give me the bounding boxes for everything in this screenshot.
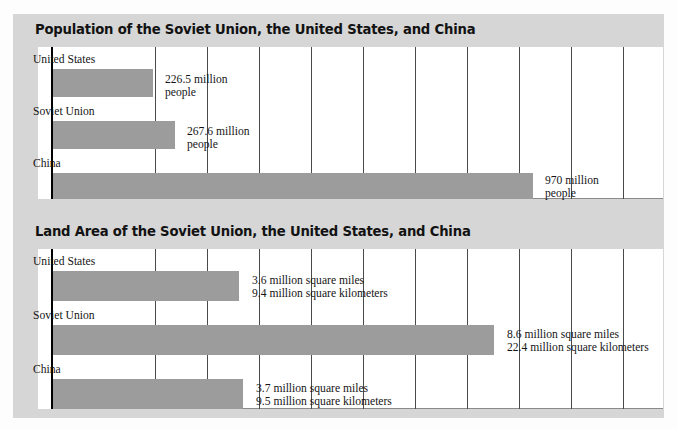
bar-landarea-soviet-union xyxy=(52,325,494,355)
category-label-population-soviet-union: Soviet Union xyxy=(33,105,95,118)
value-line: 9.5 million square kilometers xyxy=(256,396,392,409)
value-line: 970 million xyxy=(545,175,599,188)
value-line: 8.6 million square miles xyxy=(507,329,649,342)
value-label-landarea-china: 3.7 million square miles 9.5 million squ… xyxy=(256,383,392,408)
bar-population-soviet-union xyxy=(52,121,175,149)
chart-population-title: Population of the Soviet Union, the Unit… xyxy=(35,22,475,37)
axis-tick xyxy=(519,404,520,409)
value-line: people xyxy=(545,188,599,201)
gridline xyxy=(623,47,624,199)
value-line: 3.6 million square miles xyxy=(252,275,388,288)
axis-tick xyxy=(623,404,624,409)
bar-population-united-states xyxy=(52,69,153,97)
category-label-landarea-soviet-union: Soviet Union xyxy=(33,309,95,322)
chart-population-y-axis xyxy=(51,47,53,199)
value-line: people xyxy=(165,87,227,100)
chart-landarea: Land Area of the Soviet Union, the Unite… xyxy=(13,224,664,416)
value-label-landarea-soviet-union: 8.6 million square miles 22.4 million sq… xyxy=(507,329,649,354)
value-line: 3.7 million square miles xyxy=(256,383,392,396)
axis-tick xyxy=(623,194,624,199)
value-line: 9.4 million square kilometers xyxy=(252,288,388,301)
bar-landarea-china xyxy=(52,379,243,409)
category-label-landarea-united-states: United States xyxy=(33,255,95,268)
bar-landarea-united-states xyxy=(52,271,239,301)
value-label-population-china: 970 million people xyxy=(545,175,599,200)
figure-card: Population of the Soviet Union, the Unit… xyxy=(13,14,664,418)
axis-tick xyxy=(415,404,416,409)
value-label-population-united-states: 226.5 million people xyxy=(165,74,227,99)
value-line: 226.5 million xyxy=(165,74,227,87)
value-line: people xyxy=(187,139,249,152)
chart-landarea-title: Land Area of the Soviet Union, the Unite… xyxy=(35,224,471,239)
value-line: 22.4 million square kilometers xyxy=(507,342,649,355)
value-label-landarea-united-states: 3.6 million square miles 9.4 million squ… xyxy=(252,275,388,300)
axis-tick xyxy=(571,404,572,409)
category-label-landarea-china: China xyxy=(33,363,61,376)
value-line: 267.6 million xyxy=(187,126,249,139)
category-label-population-united-states: United States xyxy=(33,53,95,66)
axis-tick xyxy=(467,404,468,409)
chart-landarea-y-axis xyxy=(51,249,53,409)
category-label-population-china: China xyxy=(33,157,61,170)
chart-population: Population of the Soviet Union, the Unit… xyxy=(13,22,664,214)
page-root: Population of the Soviet Union, the Unit… xyxy=(0,0,677,429)
bar-population-china xyxy=(52,173,533,199)
value-label-population-soviet-union: 267.6 million people xyxy=(187,126,249,151)
